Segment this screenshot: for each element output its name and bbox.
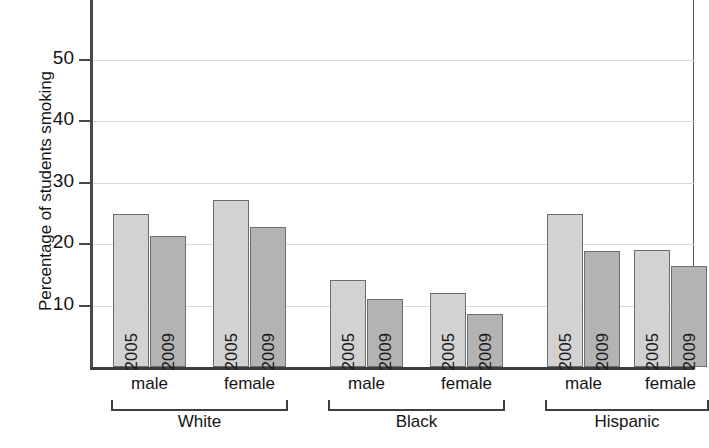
- sex-label: male: [547, 374, 620, 394]
- bar-year-label: 2005: [339, 333, 358, 371]
- bar: 2009: [584, 251, 620, 367]
- group-bracket: [545, 400, 709, 411]
- bar-year-label: 2005: [222, 333, 241, 371]
- bar: 2009: [467, 314, 503, 367]
- bar: 2009: [250, 227, 286, 367]
- bar: 2009: [671, 266, 707, 367]
- gridline: [93, 121, 694, 122]
- bar-year-label: 2009: [259, 333, 278, 371]
- bar: 2005: [634, 250, 670, 367]
- bar-year-label: 2009: [376, 333, 395, 371]
- bar: 2005: [113, 214, 149, 367]
- group-label: Hispanic: [547, 412, 707, 432]
- y-axis-tick-label: 20: [34, 231, 74, 253]
- y-axis-tick: [79, 120, 92, 122]
- y-axis-tick-label: 50: [34, 47, 74, 69]
- sex-label: female: [213, 374, 286, 394]
- gridline: [93, 183, 694, 184]
- bar-year-label: 2009: [680, 333, 699, 371]
- group-label: White: [113, 412, 286, 432]
- y-axis-tick: [79, 243, 92, 245]
- bar: 2005: [430, 293, 466, 367]
- bar-year-label: 2009: [159, 333, 178, 371]
- bar-year-label: 2005: [439, 333, 458, 371]
- y-axis-tick-label: 10: [34, 293, 74, 315]
- bar-year-label: 2005: [122, 333, 141, 371]
- bar: 2005: [330, 280, 366, 367]
- bar: 2005: [213, 200, 249, 367]
- y-axis-tick: [79, 59, 92, 61]
- y-axis-tick-label: 30: [34, 170, 74, 192]
- bar: 2009: [150, 236, 186, 367]
- group-bracket: [111, 400, 288, 411]
- y-axis-tick-label: 40: [34, 108, 74, 130]
- bar-year-label: 2009: [593, 333, 612, 371]
- y-axis-tick: [79, 305, 92, 307]
- sex-label: male: [113, 374, 186, 394]
- bar: 2005: [547, 214, 583, 367]
- bar-year-label: 2009: [476, 333, 495, 371]
- bar-year-label: 2005: [643, 333, 662, 371]
- sex-label: male: [330, 374, 403, 394]
- x-axis-line: [90, 367, 694, 370]
- y-axis-tick: [79, 182, 92, 184]
- group-label: Black: [330, 412, 503, 432]
- bar: 2009: [367, 299, 403, 367]
- bar-year-label: 2005: [556, 333, 575, 371]
- group-bracket: [328, 400, 505, 411]
- sex-label: female: [430, 374, 503, 394]
- gridline: [93, 60, 694, 61]
- sex-label: female: [634, 374, 707, 394]
